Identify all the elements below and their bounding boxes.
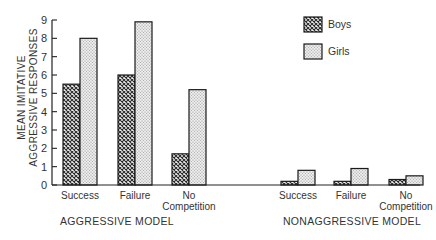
category-label: Success <box>279 190 317 201</box>
y-tick-label: 8 <box>41 32 47 44</box>
legend-swatch-boys <box>304 17 322 32</box>
y-axis: 0123456789 <box>41 14 57 191</box>
bar-girls <box>298 170 315 185</box>
legend: BoysGirls <box>304 17 351 59</box>
y-tick-label: 0 <box>41 179 47 191</box>
y-axis-label-line: AGGRESSIVE RESPONSES <box>28 28 39 167</box>
category-label: Failure <box>336 190 367 201</box>
y-tick-label: 6 <box>41 69 47 81</box>
x-axis: SuccessFailureNoCompetitionAGGRESSIVE MO… <box>52 185 433 227</box>
y-tick-label: 4 <box>41 106 47 118</box>
bar-boys <box>63 84 80 185</box>
bars <box>63 22 423 185</box>
y-tick-label: 7 <box>41 51 47 63</box>
category-label: No <box>400 190 413 201</box>
category-label: Failure <box>120 190 151 201</box>
bar-girls <box>351 169 368 186</box>
bar-girls <box>406 176 423 185</box>
y-axis-label-line: MEAN IMITATIVE <box>16 55 27 140</box>
group-label: AGGRESSIVE MODEL <box>60 215 174 227</box>
category-label: Competition <box>379 201 432 212</box>
y-tick-label: 1 <box>41 161 47 173</box>
legend-label-boys: Boys <box>328 18 351 30</box>
y-tick-label: 3 <box>41 124 47 136</box>
bar-girls <box>135 22 152 185</box>
bar-chart: 0123456789 MEAN IMITATIVEAGGRESSIVE RESP… <box>0 0 436 240</box>
category-label: Competition <box>162 201 215 212</box>
legend-swatch-girls <box>304 44 322 59</box>
bar-boys <box>172 154 189 185</box>
bar-girls <box>80 38 97 185</box>
y-tick-label: 5 <box>41 87 47 99</box>
category-label: Success <box>61 190 99 201</box>
bar-girls <box>189 90 206 185</box>
y-axis-label: MEAN IMITATIVEAGGRESSIVE RESPONSES <box>16 28 39 167</box>
y-tick-label: 2 <box>41 142 47 154</box>
group-label: NONAGGRESSIVE MODEL <box>283 215 421 227</box>
bar-boys <box>118 75 135 185</box>
legend-label-girls: Girls <box>328 45 350 57</box>
y-tick-label: 9 <box>41 14 47 26</box>
bar-boys <box>389 180 406 186</box>
category-label: No <box>183 190 196 201</box>
